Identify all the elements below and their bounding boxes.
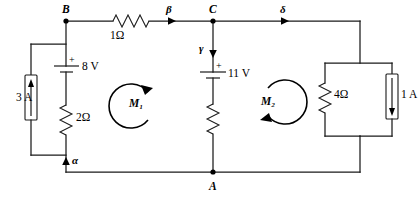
- gamma-arrowhead: [209, 50, 217, 58]
- junction-dot-a: [210, 169, 215, 174]
- node-label-c: C: [209, 4, 217, 16]
- circuit-schematic-canvas: [0, 0, 419, 206]
- mesh-1-arrowhead: [141, 85, 153, 95]
- polarity-plus-8v: +: [69, 55, 75, 65]
- mesh-label-m1: M₁: [129, 98, 143, 110]
- polarity-plus-11v: +: [216, 61, 222, 71]
- battery-11v-label: 11 V: [228, 68, 250, 80]
- resistor-unlabeled-symbol: [207, 104, 219, 134]
- resistor-1ohm-label: 1Ω: [110, 30, 124, 42]
- delta-arrowhead: [281, 17, 289, 25]
- junction-dot-b: [63, 18, 68, 23]
- alpha-arrowhead: [62, 157, 70, 165]
- branch-current-label-gamma: γ: [199, 43, 204, 54]
- resistor-4ohm-symbol: [319, 83, 331, 113]
- branch-current-label-alpha: α: [72, 155, 78, 166]
- resistor-2ohm-symbol: [60, 105, 72, 135]
- node-label-b: B: [62, 4, 70, 16]
- mesh-label-m2: M₂: [261, 96, 275, 108]
- circuit-diagram: B C A α β γ δ 3 A 8 V 2Ω 1Ω 11 V 4Ω 1 A …: [0, 0, 419, 206]
- node-label-a: A: [209, 181, 217, 193]
- resistor-1ohm-symbol: [113, 15, 149, 27]
- current-source-1a-label: 1 A: [401, 89, 417, 101]
- branch-current-label-beta: β: [166, 4, 172, 15]
- battery-8v-label: 8 V: [82, 61, 99, 73]
- resistor-2ohm-label: 2Ω: [76, 112, 90, 124]
- branch-current-label-delta: δ: [280, 4, 286, 15]
- mesh-2-arrowhead: [260, 113, 272, 122]
- beta-arrowhead: [168, 17, 176, 25]
- resistor-4ohm-label: 4Ω: [334, 89, 348, 101]
- current-source-3a-label: 3 A: [16, 92, 32, 104]
- junction-dot-c: [210, 18, 215, 23]
